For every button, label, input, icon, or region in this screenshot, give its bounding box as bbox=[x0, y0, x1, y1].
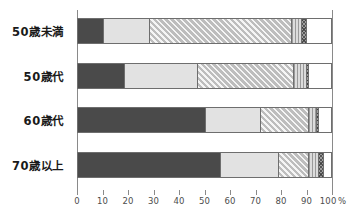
x-tick-10 bbox=[103, 190, 104, 195]
bar-3-segment-4 bbox=[308, 108, 316, 132]
bar-4-segment-2 bbox=[220, 153, 278, 177]
bar-4-segment-6 bbox=[323, 153, 331, 177]
x-tick-label-100: 100% bbox=[320, 196, 347, 206]
x-tick-60 bbox=[230, 190, 231, 195]
bar-4-segment-1 bbox=[78, 153, 220, 177]
bar-1-segment-3 bbox=[149, 19, 291, 43]
x-tick-label-50: 50 bbox=[199, 196, 210, 206]
category-label-2: 50歳代 bbox=[24, 68, 64, 84]
bar-1-segment-6 bbox=[306, 19, 331, 43]
x-tick-label-0: 0 bbox=[74, 196, 80, 206]
category-axis-labels: 50歳未満50歳代60歳代70歳以上 bbox=[0, 0, 72, 221]
x-tick-label-30: 30 bbox=[148, 196, 159, 206]
x-axis-unit: % bbox=[338, 196, 346, 206]
x-tick-0 bbox=[77, 190, 78, 195]
x-tick-100 bbox=[332, 190, 333, 195]
stacked-bar-chart: 50歳未満50歳代60歳代70歳以上 010203040506070809010… bbox=[0, 0, 353, 221]
bar-3-segment-1 bbox=[78, 108, 205, 132]
x-tick-20 bbox=[128, 190, 129, 195]
bar-1 bbox=[77, 18, 332, 44]
x-tick-80 bbox=[281, 190, 282, 195]
bar-4-segment-3 bbox=[278, 153, 308, 177]
x-tick-70 bbox=[256, 190, 257, 195]
x-axis-tick-labels: 0102030405060708090100% bbox=[0, 196, 353, 214]
bar-3-segment-3 bbox=[260, 108, 308, 132]
bar-3 bbox=[77, 107, 332, 133]
bar-2-segment-1 bbox=[78, 64, 124, 88]
x-tick-30 bbox=[154, 190, 155, 195]
bar-4-segment-4 bbox=[308, 153, 318, 177]
x-tick-label-70: 70 bbox=[250, 196, 261, 206]
bar-1-segment-1 bbox=[78, 19, 103, 43]
x-tick-40 bbox=[179, 190, 180, 195]
plot-right-border bbox=[332, 10, 333, 192]
bar-2-segment-2 bbox=[124, 64, 197, 88]
bar-4 bbox=[77, 152, 332, 178]
category-label-3: 60歳代 bbox=[24, 112, 64, 128]
x-tick-label-80: 80 bbox=[275, 196, 286, 206]
x-tick-label-40: 40 bbox=[173, 196, 184, 206]
x-tick-label-90: 90 bbox=[301, 196, 312, 206]
bar-2-segment-4 bbox=[293, 64, 306, 88]
bar-2-segment-3 bbox=[197, 64, 293, 88]
x-tick-50 bbox=[205, 190, 206, 195]
x-tick-label-10: 10 bbox=[97, 196, 108, 206]
bar-2 bbox=[77, 63, 332, 89]
x-tick-label-60: 60 bbox=[224, 196, 235, 206]
category-label-1: 50歳未満 bbox=[12, 23, 64, 39]
category-label-4: 70歳以上 bbox=[12, 157, 64, 173]
bar-1-segment-2 bbox=[103, 19, 149, 43]
bar-1-segment-4 bbox=[291, 19, 301, 43]
bar-3-segment-6 bbox=[318, 108, 331, 132]
plot-area bbox=[77, 10, 332, 190]
x-tick-90 bbox=[307, 190, 308, 195]
x-tick-label-20: 20 bbox=[122, 196, 133, 206]
bar-3-segment-2 bbox=[205, 108, 261, 132]
bar-2-segment-6 bbox=[308, 64, 331, 88]
